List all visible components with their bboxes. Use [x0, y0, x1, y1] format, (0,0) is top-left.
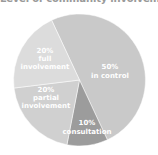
svg-text:consultation: consultation [62, 128, 111, 136]
svg-text:10%: 10% [79, 119, 96, 127]
svg-text:in control: in control [91, 72, 129, 80]
svg-text:involvement: involvement [21, 63, 70, 71]
svg-text:partial: partial [33, 94, 59, 102]
svg-text:20%: 20% [38, 86, 55, 94]
svg-text:full: full [39, 55, 52, 63]
svg-text:involvement: involvement [22, 102, 71, 110]
svg-text:50%: 50% [102, 63, 119, 71]
svg-text:20%: 20% [37, 47, 54, 55]
pie-chart: 50% in control 10% consultation 20% part… [0, 0, 158, 155]
